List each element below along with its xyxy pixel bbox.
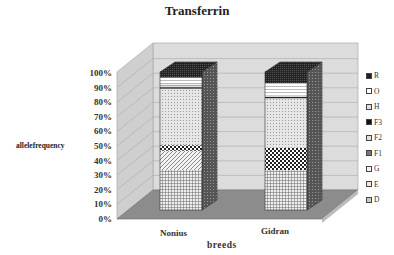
- y-tick: 20%: [72, 185, 112, 195]
- bar-nonius: [160, 62, 217, 210]
- y-tick: 30%: [72, 170, 112, 180]
- y-tick: 50%: [72, 141, 112, 151]
- x-category-nonius: Nonius: [160, 228, 187, 238]
- legend-item-r: R: [366, 68, 394, 84]
- y-tick: 80%: [72, 97, 112, 107]
- legend-swatch: [366, 119, 372, 125]
- legend-item-o: O: [366, 84, 394, 100]
- legend-swatch: [366, 197, 372, 203]
- legend-swatch: [366, 181, 372, 187]
- legend-item-f3: F3: [366, 115, 394, 131]
- legend-item-f1: F1: [366, 146, 394, 162]
- bar-gidran: [265, 62, 322, 210]
- legend-swatch: [366, 150, 372, 156]
- legend: R O H F3 F2 F1 G E D: [366, 68, 394, 208]
- y-tick: 10%: [72, 199, 112, 209]
- legend-item-h: H: [366, 99, 394, 115]
- legend-swatch: [366, 73, 372, 79]
- y-tick: 0%: [72, 214, 112, 224]
- y-tick: 40%: [72, 156, 112, 166]
- legend-swatch: [366, 135, 372, 141]
- legend-swatch: [366, 166, 372, 172]
- y-tick: 70%: [72, 112, 112, 122]
- x-category-gidran: Gidran: [261, 226, 289, 236]
- y-tick: 90%: [72, 83, 112, 93]
- legend-swatch: [366, 88, 372, 94]
- legend-item-g: G: [366, 161, 394, 177]
- x-axis-label: breeds: [207, 240, 237, 250]
- y-tick: 60%: [72, 126, 112, 136]
- legend-swatch: [366, 104, 372, 110]
- legend-item-e: E: [366, 177, 394, 193]
- legend-item-f2: F2: [366, 130, 394, 146]
- chart-plot: [0, 0, 394, 255]
- y-tick: 100%: [72, 68, 112, 78]
- legend-item-d: D: [366, 192, 394, 208]
